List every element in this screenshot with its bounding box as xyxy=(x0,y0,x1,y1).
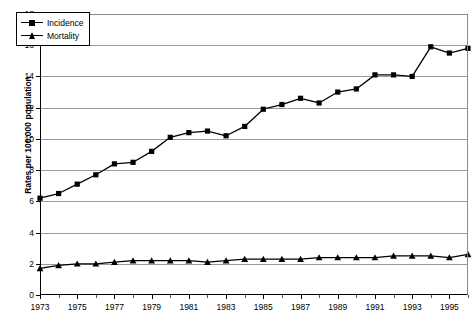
data-point-incidence xyxy=(298,96,303,101)
x-tick-label: 1991 xyxy=(365,302,384,312)
data-point-incidence xyxy=(279,102,284,107)
data-point-incidence xyxy=(391,72,396,77)
x-tick-mark-minor xyxy=(133,295,134,298)
data-point-incidence xyxy=(37,196,42,201)
x-tick-mark xyxy=(412,295,413,299)
data-point-incidence xyxy=(130,160,135,165)
data-point-incidence xyxy=(112,161,117,166)
x-tick-mark xyxy=(114,295,115,299)
legend-marker-triangle-icon xyxy=(21,30,43,41)
data-point-incidence xyxy=(465,46,470,51)
x-tick-mark xyxy=(338,295,339,299)
x-tick-mark xyxy=(189,295,190,299)
legend-item-mortality: Mortality xyxy=(21,29,83,42)
y-tick-label: 8 xyxy=(29,165,34,175)
data-point-incidence xyxy=(75,182,80,187)
x-tick-label: 1993 xyxy=(403,302,422,312)
x-tick-mark xyxy=(40,295,41,299)
data-point-incidence xyxy=(242,124,247,129)
y-tick-label: 12 xyxy=(25,103,34,113)
y-tick-label: 6 xyxy=(29,196,34,206)
data-point-incidence xyxy=(56,191,61,196)
x-tick-mark-minor xyxy=(394,295,395,298)
plot-area: 024681012141618 197319751977197919811983… xyxy=(40,14,468,295)
x-tick-mark-minor xyxy=(468,295,469,298)
x-tick-mark xyxy=(301,295,302,299)
x-tick-mark xyxy=(449,295,450,299)
legend-marker-square-icon xyxy=(21,17,43,28)
chart-legend: Incidence Mortality xyxy=(16,12,90,46)
data-point-incidence xyxy=(317,100,322,105)
x-tick-mark-minor xyxy=(59,295,60,298)
data-point-incidence xyxy=(372,72,377,77)
x-tick-label: 1975 xyxy=(68,302,87,312)
chart-container: Rates per 100,000 population 02468101214… xyxy=(0,0,476,321)
legend-label-incidence: Incidence xyxy=(47,18,83,28)
data-point-incidence xyxy=(168,135,173,140)
x-tick-label: 1973 xyxy=(31,302,50,312)
data-point-incidence xyxy=(354,86,359,91)
x-tick-mark-minor xyxy=(170,295,171,298)
x-tick-label: 1995 xyxy=(440,302,459,312)
x-tick-mark xyxy=(226,295,227,299)
x-tick-label: 1989 xyxy=(328,302,347,312)
x-tick-label: 1987 xyxy=(291,302,310,312)
y-tick-label: 4 xyxy=(29,228,34,238)
data-point-incidence xyxy=(186,130,191,135)
x-tick-mark-minor xyxy=(356,295,357,298)
x-tick-label: 1977 xyxy=(105,302,124,312)
y-tick-label: 10 xyxy=(25,134,34,144)
x-tick-mark-minor xyxy=(282,295,283,298)
x-tick-mark xyxy=(77,295,78,299)
data-point-incidence xyxy=(410,74,415,79)
data-point-incidence xyxy=(335,89,340,94)
x-tick-mark-minor xyxy=(207,295,208,298)
data-point-incidence xyxy=(447,50,452,55)
x-tick-mark xyxy=(263,295,264,299)
x-tick-mark-minor xyxy=(431,295,432,298)
x-tick-label: 1981 xyxy=(179,302,198,312)
series-line-incidence xyxy=(40,47,468,198)
y-tick-label: 14 xyxy=(25,71,34,81)
data-point-incidence xyxy=(149,149,154,154)
data-point-incidence xyxy=(428,44,433,49)
data-point-mortality xyxy=(465,251,472,257)
legend-label-mortality: Mortality xyxy=(47,31,79,41)
x-tick-mark-minor xyxy=(245,295,246,298)
y-tick-label: 0 xyxy=(29,290,34,300)
data-point-incidence xyxy=(93,172,98,177)
x-tick-mark-minor xyxy=(96,295,97,298)
data-point-incidence xyxy=(205,128,210,133)
x-tick-label: 1985 xyxy=(254,302,273,312)
x-tick-mark xyxy=(375,295,376,299)
series-layer xyxy=(40,14,468,295)
legend-item-incidence: Incidence xyxy=(21,16,83,29)
series-line-mortality xyxy=(40,254,468,268)
x-tick-mark-minor xyxy=(319,295,320,298)
y-tick-label: 2 xyxy=(29,259,34,269)
x-tick-label: 1983 xyxy=(217,302,236,312)
x-tick-label: 1979 xyxy=(142,302,161,312)
x-tick-mark xyxy=(152,295,153,299)
data-point-incidence xyxy=(261,107,266,112)
data-point-incidence xyxy=(223,133,228,138)
